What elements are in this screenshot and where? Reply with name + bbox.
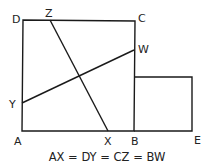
small-square — [134, 77, 192, 131]
label-Z: Z — [45, 7, 53, 20]
segment-YW — [22, 50, 134, 103]
label-D: D — [12, 13, 20, 26]
label-Y: Y — [8, 98, 16, 111]
label-A: A — [14, 135, 22, 148]
label-C: C — [138, 12, 146, 25]
label-B: B — [131, 135, 139, 148]
caption: AX = DY = CZ = BW — [49, 150, 166, 164]
geometry-diagram: D Z C W Y A X B E AX = DY = CZ = BW — [0, 0, 215, 166]
label-W: W — [138, 43, 149, 56]
label-X: X — [104, 135, 112, 148]
label-E: E — [194, 134, 201, 147]
